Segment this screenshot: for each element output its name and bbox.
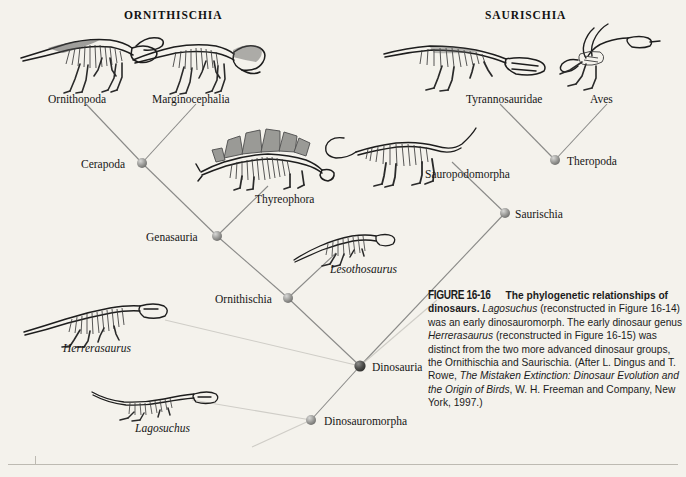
skeleton-thyreophora <box>198 120 338 192</box>
node-dinosauromorpha <box>306 415 316 425</box>
skeleton-lagosuchus <box>90 370 220 422</box>
taxon-label-tyrannosauridae: Tyrannosauridae <box>466 93 542 105</box>
skeleton-herrerasaurus <box>22 290 172 348</box>
taxon-label-saurischia: Saurischia <box>515 208 563 220</box>
node-saurischia <box>500 208 510 218</box>
figure-canvas: ORNITHISCHIA SAURISCHIA OrnithopodaMargi… <box>0 0 686 477</box>
header-ornithischia: ORNITHISCHIA <box>124 9 222 21</box>
skeleton-marginocephalia <box>130 28 270 96</box>
node-ornithischia <box>283 293 293 303</box>
page-rule-tick <box>35 456 36 465</box>
page-rule <box>8 464 678 465</box>
node-theropoda <box>550 155 560 165</box>
taxon-label-lagosuchus: Lagosuchus <box>135 422 190 434</box>
taxon-label-genasauria: Genasauria <box>146 231 198 243</box>
node-cerapoda <box>137 158 147 168</box>
taxon-label-ornithischia: Ornithischia <box>215 293 272 305</box>
taxon-label-theropoda: Theropoda <box>567 155 617 167</box>
taxon-label-aves: Aves <box>590 93 613 105</box>
skeleton-tyrannosauridae <box>382 24 552 92</box>
skeleton-lesothosaurus <box>292 222 402 268</box>
figure-number: FIGURE 16-16 <box>428 289 491 302</box>
taxon-label-lesothosaurus: Lesothosaurus <box>330 263 397 275</box>
taxon-label-herrerasaurus: Herrerasaurus <box>63 342 131 354</box>
node-genasauria <box>212 231 222 241</box>
node-dinosauria <box>354 360 365 371</box>
taxon-label-ornithopoda: Ornithopoda <box>48 93 106 105</box>
caption-genus-lagosuchus: Lagosuchus <box>482 303 537 314</box>
taxon-label-dinosauromorpha: Dinosauromorpha <box>324 415 407 427</box>
skeleton-sauropodomorpha <box>322 126 482 190</box>
figure-caption: FIGURE 16-16The phylogenetic relationshi… <box>428 289 684 410</box>
skeleton-aves <box>556 22 666 92</box>
taxon-label-sauropodomorpha: Sauropodomorpha <box>425 168 510 180</box>
taxon-label-thyreophora: Thyreophora <box>255 193 314 205</box>
caption-genus-herrerasaurus: Herrerasaurus <box>428 330 493 341</box>
taxon-label-dinosauria: Dinosauria <box>372 361 422 373</box>
taxon-label-marginocephalia: Marginocephalia <box>152 93 230 105</box>
header-saurischia: SAURISCHIA <box>485 9 566 21</box>
taxon-label-cerapoda: Cerapoda <box>81 158 125 170</box>
